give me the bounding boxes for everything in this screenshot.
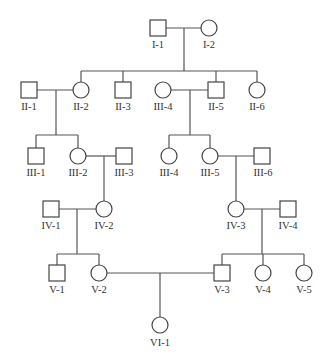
male-square-icon [115,82,131,98]
individual-label: IV-2 [95,220,114,231]
individual-label: V-1 [49,284,64,295]
male-square-icon [116,148,132,164]
individual-I-1: I-1 [150,20,166,50]
individual-label: III-2 [68,167,87,178]
female-circle-icon [70,148,86,164]
individual-label: V-4 [255,284,271,295]
individual-label: III-5 [200,167,219,178]
male-square-icon [150,20,166,36]
female-circle-icon [255,265,271,281]
individual-V-5: V-5 [296,265,312,295]
individual-V-3: V-3 [214,265,230,295]
individual-III-1: III-1 [26,148,45,178]
male-square-icon [280,201,296,217]
male-square-icon [21,82,37,98]
male-square-icon [49,265,65,281]
male-square-icon [254,148,270,164]
female-circle-icon [73,82,89,98]
individual-II-2: II-2 [73,82,89,112]
female-circle-icon [201,20,217,36]
individual-V-2: V-2 [91,265,107,295]
female-circle-icon [152,317,168,333]
male-square-icon [43,201,59,217]
individual-label: II-1 [21,101,37,112]
individual-label: IV-4 [279,220,299,231]
individual-label: III-4 [159,167,179,178]
individual-III-4: III-4 [159,148,179,178]
individual-I-2: I-2 [201,20,217,50]
female-circle-icon [296,265,312,281]
female-circle-icon [155,82,171,98]
individual-label: IV-3 [227,220,246,231]
female-circle-icon [202,148,218,164]
individual-label: III-3 [114,167,133,178]
female-circle-icon [161,148,177,164]
individual-label: VI-1 [150,337,170,348]
individual-III-4-spouse: III-4 [153,82,173,112]
male-square-icon [28,148,44,164]
individual-label: II-2 [73,101,89,112]
individual-label: IV-1 [42,220,61,231]
female-circle-icon [91,265,107,281]
individual-II-1: II-1 [21,82,37,112]
individual-label: I-1 [152,39,164,50]
individual-II-5: II-5 [208,82,224,112]
individual-label: III-4 [153,101,173,112]
individual-label: I-2 [203,39,215,50]
individual-V-1: V-1 [49,265,65,295]
individual-IV-1: IV-1 [42,201,61,231]
female-circle-icon [228,201,244,217]
male-square-icon [214,265,230,281]
individual-III-3: III-3 [114,148,133,178]
individual-III-5: III-5 [200,148,219,178]
individual-label: III-1 [26,167,45,178]
individual-label: V-3 [214,284,229,295]
female-circle-icon [249,82,265,98]
male-square-icon [208,82,224,98]
individual-III-2: III-2 [68,148,87,178]
individual-IV-4: IV-4 [279,201,299,231]
individual-label: V-2 [91,284,106,295]
individual-IV-3: IV-3 [227,201,246,231]
individual-label: II-5 [208,101,224,112]
individual-III-6: III-6 [253,148,272,178]
individual-II-3: II-3 [115,82,131,112]
individual-II-6: II-6 [249,82,265,112]
individual-IV-2: IV-2 [95,201,114,231]
individual-label: II-6 [249,101,265,112]
individual-label: III-6 [253,167,272,178]
pedigree-diagram: I-1 I-2 II-1 II-2 II-3 III-4 II-5 [0,0,330,361]
female-circle-icon [96,201,112,217]
individual-VI-1: VI-1 [150,317,170,348]
individual-label: V-5 [296,284,311,295]
individual-V-4: V-4 [255,265,271,295]
individual-label: II-3 [115,101,131,112]
individuals: I-1 I-2 II-1 II-2 II-3 III-4 II-5 [21,20,312,348]
